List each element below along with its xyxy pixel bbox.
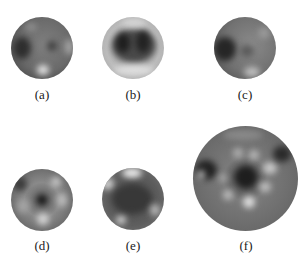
panel-b-label: (b) (113, 87, 153, 103)
panel-e-label: (e) (113, 238, 153, 254)
panel-a-label: (a) (22, 87, 62, 103)
panel-d-label: (d) (22, 238, 62, 254)
panel-f-image (193, 126, 298, 231)
panel-f-label: (f) (226, 238, 266, 254)
panel-c-image (214, 17, 276, 79)
panel-e-image (102, 168, 164, 230)
panel-a-image (11, 17, 73, 79)
panel-d-image (11, 169, 73, 231)
panel-b-image (102, 17, 164, 79)
panel-c-label: (c) (225, 87, 265, 103)
